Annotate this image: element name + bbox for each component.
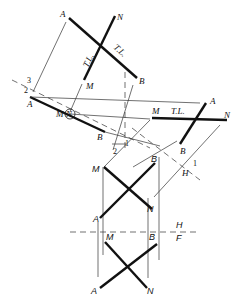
label-b: B xyxy=(139,76,145,86)
label-m: M xyxy=(151,106,160,116)
projector-a-h xyxy=(30,97,200,103)
label-a: A xyxy=(209,96,216,106)
projector-m xyxy=(70,84,82,112)
label-true-length: T.L. xyxy=(171,106,185,116)
fold-label-3: 3 xyxy=(27,76,31,85)
fold-line-1-2: 2 1 xyxy=(112,72,129,156)
label-n: N xyxy=(147,286,154,296)
label-n: N xyxy=(147,204,154,214)
label-b: B xyxy=(180,146,186,156)
projector-a xyxy=(33,22,66,92)
label-true-length-mn: T.L. xyxy=(81,52,96,69)
front-view: M B A N xyxy=(90,232,157,296)
descriptive-geometry-diagram: A N M B T.L. T.L. 3 2 N M A B 2 1 M T.L xyxy=(0,0,241,307)
label-true-length-ab: T.L. xyxy=(112,42,129,59)
line-ab-aux2 xyxy=(69,18,137,78)
label-a: A xyxy=(90,286,97,296)
label-m: M xyxy=(106,232,114,242)
projector-n-top xyxy=(154,125,220,197)
top-view: M B A N xyxy=(92,154,159,278)
label-b: B xyxy=(149,232,155,242)
label-n: N xyxy=(223,110,231,120)
projector-mn-h xyxy=(70,114,150,119)
line-mn-front xyxy=(105,242,147,288)
auxiliary-view-1: N M A B xyxy=(26,97,105,142)
fold-label-1: 1 xyxy=(193,159,197,168)
line-mn-aux2 xyxy=(84,16,115,80)
label-a: A xyxy=(92,214,99,224)
label-b: B xyxy=(97,132,103,142)
label-m: M xyxy=(85,81,94,91)
fold-label-h: H xyxy=(181,168,189,178)
auxiliary-view-2: A N M B T.L. T.L. xyxy=(59,9,145,91)
label-a: A xyxy=(59,9,66,19)
fold-label-f: F xyxy=(176,233,182,243)
line-ab-front xyxy=(100,244,157,288)
label-m: M xyxy=(92,164,100,174)
line-mn-tl xyxy=(152,118,227,120)
label-b: B xyxy=(151,154,157,164)
label-m: M xyxy=(55,109,64,119)
label-n: N xyxy=(116,12,124,22)
fold-line-h-f: H F xyxy=(70,220,198,243)
projector-m-top xyxy=(104,120,150,167)
label-a: A xyxy=(26,99,33,109)
fold-label-h: H xyxy=(176,220,183,230)
fold-line-h-1: H 1 xyxy=(132,128,200,180)
fold-label-2: 2 xyxy=(24,86,28,95)
